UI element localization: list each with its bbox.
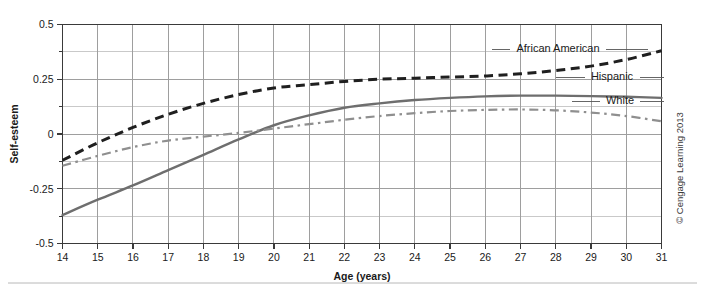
- x-tick-label: 29: [585, 251, 597, 263]
- x-tick-label: 17: [162, 251, 174, 263]
- data-series-lines: [63, 51, 662, 215]
- x-axis-ticks: [63, 244, 662, 249]
- y-tick-label: -0.25: [30, 183, 54, 195]
- y-axis-title: Self-esteem: [8, 105, 20, 164]
- y-tick-label: 0.25: [33, 73, 54, 85]
- x-tick-label: 21: [303, 251, 315, 263]
- x-tick-label: 25: [444, 251, 456, 263]
- x-tick-label: 28: [550, 251, 562, 263]
- y-tick-label: 0.5: [39, 18, 54, 30]
- x-tick-label: 15: [92, 251, 104, 263]
- x-tick-label: 19: [233, 251, 245, 263]
- x-tick-label: 31: [656, 251, 668, 263]
- x-tick-label: 23: [374, 251, 386, 263]
- copyright-notice: © Cengage Learning 2013: [674, 112, 685, 224]
- series-label-african-american: African American: [516, 42, 599, 54]
- series-line-hispanic: [63, 96, 662, 215]
- figure-container: -0.5-0.2500.250.5 1415161718192021222324…: [0, 0, 705, 292]
- x-tick-label: 18: [198, 251, 210, 263]
- y-axis-ticks: [57, 25, 63, 244]
- x-axis-title: Age (years): [333, 270, 390, 282]
- series-line-white: [63, 109, 662, 165]
- y-axis-tick-labels: -0.5-0.2500.250.5: [30, 18, 54, 249]
- x-tick-label: 30: [620, 251, 632, 263]
- series-label-hispanic: Hispanic: [591, 70, 634, 82]
- x-tick-label: 20: [268, 251, 280, 263]
- x-tick-label: 27: [515, 251, 527, 263]
- series-label-white: White: [606, 94, 634, 106]
- x-tick-label: 16: [127, 251, 139, 263]
- y-tick-label: 0: [48, 128, 54, 140]
- x-axis-tick-labels: 141516171819202122232425262728293031: [57, 251, 668, 263]
- x-tick-label: 26: [479, 251, 491, 263]
- x-tick-label: 22: [339, 251, 351, 263]
- y-tick-label: -0.5: [35, 237, 53, 249]
- x-tick-label: 14: [57, 251, 69, 263]
- chart-svg: -0.5-0.2500.250.5 1415161718192021222324…: [0, 0, 705, 292]
- x-tick-label: 24: [409, 251, 421, 263]
